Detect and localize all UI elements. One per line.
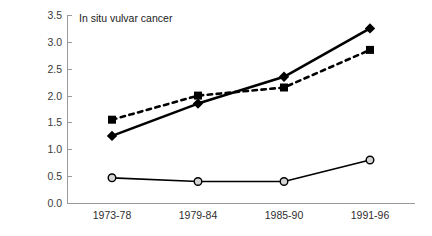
y-tick-mark	[67, 203, 72, 204]
data-point-circle	[280, 178, 288, 186]
series-line	[112, 50, 370, 120]
series-diamond-solid-series	[107, 23, 375, 141]
y-tick-mark	[67, 96, 72, 97]
y-tick-mark	[67, 42, 72, 43]
y-tick-mark	[67, 176, 72, 177]
series-square-dashed-series	[108, 46, 374, 124]
data-point-diamond	[107, 131, 117, 141]
series-line	[112, 28, 370, 135]
data-point-circle	[108, 174, 116, 182]
data-point-diamond	[365, 23, 375, 33]
data-point-square	[366, 46, 374, 54]
series-line	[112, 160, 370, 182]
y-tick-mark	[67, 15, 72, 16]
chart-figure: Incidence/100,000 0.00.51.01.52.02.53.03…	[0, 0, 432, 236]
series-circle-solid-series	[108, 156, 374, 185]
data-point-diamond	[193, 98, 203, 108]
data-point-square	[194, 92, 202, 100]
data-point-square	[280, 84, 288, 92]
data-point-circle	[194, 178, 202, 186]
data-point-diamond	[279, 72, 289, 82]
plot-area	[0, 0, 432, 236]
y-tick-mark	[67, 69, 72, 70]
y-tick-mark	[67, 149, 72, 150]
data-point-square	[108, 116, 116, 124]
data-point-circle	[366, 156, 374, 164]
y-tick-mark	[67, 122, 72, 123]
